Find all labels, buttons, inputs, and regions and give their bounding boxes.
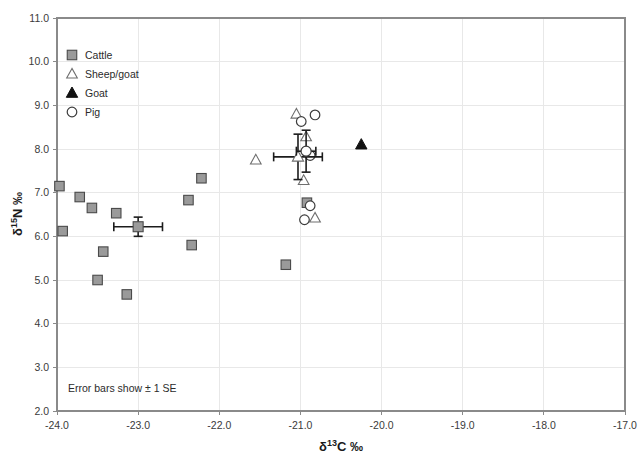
data-point-open-circle <box>310 110 320 120</box>
x-axis-ticks: -24.0-23.0-22.0-21.0-20.0-19.0-18.0-17.0 <box>45 411 637 431</box>
y-axis-ticks: 2.03.04.05.06.07.08.09.010.011.0 <box>29 12 57 417</box>
x-title-superscript: 13 <box>327 438 337 448</box>
y-tick-label: 2.0 <box>34 405 49 417</box>
x-axis-title: δ13C ‰ <box>319 438 363 454</box>
y-title-superscript: 15 <box>9 218 19 228</box>
data-point-open-circle <box>300 215 310 225</box>
y-tick-label: 9.0 <box>34 99 49 111</box>
data-point-filled-square <box>122 290 132 300</box>
data-point-filled-square <box>55 181 64 191</box>
legend-item-goat[interactable]: Goat <box>66 87 108 99</box>
legend-label: Pig <box>85 106 100 118</box>
legend-label: Cattle <box>85 49 113 61</box>
y-tick-label: 11.0 <box>29 12 49 24</box>
y-axis-title: δ15N ‰ <box>9 192 25 236</box>
x-tick-label: -23.0 <box>126 419 150 431</box>
data-point-filled-square <box>187 240 197 250</box>
x-tick-label: -20.0 <box>370 419 394 431</box>
legend-label: Goat <box>85 87 108 99</box>
mean-symbol-filled-square <box>133 222 143 232</box>
x-tick-label: -24.0 <box>45 419 69 431</box>
y-tick-label: 6.0 <box>34 230 49 242</box>
data-point-filled-square <box>87 203 97 213</box>
x-title-rest: C ‰ <box>337 439 363 454</box>
data-point-filled-square <box>58 226 68 236</box>
data-point-open-circle <box>296 117 306 127</box>
x-tick-label: -19.0 <box>451 419 475 431</box>
x-tick-label: -21.0 <box>288 419 312 431</box>
svg-text:δ15N ‰: δ15N ‰ <box>9 192 25 236</box>
y-tick-label: 4.0 <box>34 317 49 329</box>
y-tick-label: 7.0 <box>34 186 49 198</box>
legend-label: Sheep/goat <box>85 68 139 80</box>
plot-background <box>57 18 625 411</box>
y-title-rest: N ‰ <box>10 192 25 218</box>
data-point-filled-square <box>111 208 121 218</box>
chart-figure: 2.03.04.05.06.07.08.09.010.011.0 -24.0-2… <box>0 0 642 457</box>
data-point-filled-square <box>93 275 103 285</box>
data-point-open-circle <box>305 201 315 211</box>
y-tick-label: 5.0 <box>34 274 49 286</box>
x-tick-label: -17.0 <box>613 419 637 431</box>
scatter-plot-svg: 2.03.04.05.06.07.08.09.010.011.0 -24.0-2… <box>0 0 642 457</box>
svg-text:δ13C ‰: δ13C ‰ <box>319 438 363 454</box>
x-tick-label: -22.0 <box>207 419 231 431</box>
x-title-delta: δ <box>319 439 327 454</box>
data-point-filled-square <box>184 195 194 205</box>
mean-symbol-open-circle <box>301 146 311 156</box>
y-title-delta: δ <box>10 228 25 236</box>
y-tick-label: 8.0 <box>34 143 49 155</box>
legend-marker-open-circle <box>67 107 77 117</box>
y-tick-label: 3.0 <box>34 361 49 373</box>
data-point-filled-square <box>197 174 207 184</box>
data-point-filled-square <box>75 192 85 202</box>
data-point-filled-square <box>281 260 291 270</box>
x-tick-label: -18.0 <box>532 419 556 431</box>
y-tick-label: 10.0 <box>29 55 50 67</box>
error-bar-note: Error bars show ± 1 SE <box>68 382 176 394</box>
legend-marker-filled-square <box>67 50 77 60</box>
legend-item-cattle[interactable]: Cattle <box>67 49 112 61</box>
data-point-filled-square <box>99 247 109 257</box>
